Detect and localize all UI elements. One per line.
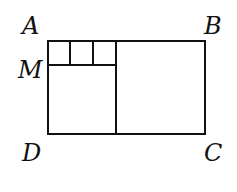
label-d: D [21, 139, 41, 167]
label-a: A [20, 12, 39, 40]
rectangle-abcd [48, 41, 205, 134]
label-c: C [204, 139, 222, 167]
label-m: M [17, 56, 44, 84]
geometry-diagram: A B M D C [0, 0, 237, 192]
label-b: B [203, 12, 222, 40]
